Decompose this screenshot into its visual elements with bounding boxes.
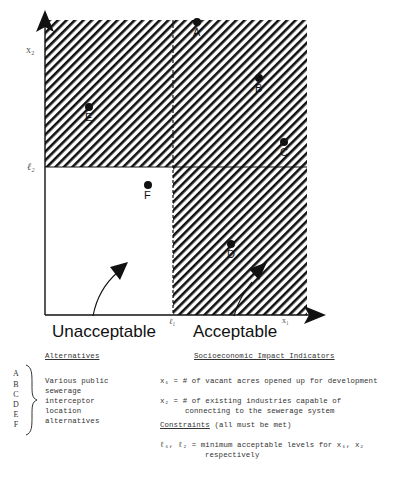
unacceptable-region	[45, 167, 173, 315]
svg-text:C: C	[280, 146, 288, 158]
x1-definition: x₁ = # of vacant acres opened up for dev…	[160, 376, 378, 386]
unacceptable-label: Unacceptable	[52, 322, 156, 342]
svg-text:F: F	[144, 189, 151, 201]
constraints-line: Constraints (all must be met)	[160, 420, 292, 430]
alternative-letters: A B C D E F	[10, 368, 22, 430]
x2-definition-line2: connecting to the sewerage system	[185, 406, 335, 416]
point-D: D	[227, 240, 235, 260]
point-C: C	[280, 138, 288, 158]
x-axis-label: x₁	[282, 316, 289, 325]
svg-text:E: E	[85, 111, 92, 123]
l2-label: ℓ₂	[27, 161, 35, 172]
threshold-definition-line2: respectively	[205, 450, 259, 460]
constraints-heading: Constraints	[160, 421, 210, 429]
constraints-note: (all must be met)	[210, 421, 292, 429]
y-axis-label: x₂	[26, 44, 35, 55]
indicators-heading: Socioeconomic Impact Indicators	[194, 351, 335, 361]
threshold-definition-line1: ℓ₁, ℓ₂ = minimum acceptable levels for x…	[160, 440, 364, 450]
x2-definition-line1: x₂ = # of existing industries capable of	[160, 396, 341, 406]
point-E: E	[85, 103, 93, 123]
svg-text:A: A	[193, 26, 201, 38]
point-B: B	[255, 74, 263, 94]
alt-letter: F	[10, 419, 22, 430]
point-A: A	[193, 18, 201, 38]
alt-letter: A	[10, 368, 22, 379]
brace-icon	[24, 364, 38, 436]
l1-label: ℓ₁	[169, 317, 175, 326]
acceptable-label: Acceptable	[193, 322, 277, 342]
tradeoff-diagram: A B C D E F	[0, 0, 398, 340]
alternatives-heading: Alternatives	[45, 351, 99, 361]
svg-text:D: D	[227, 248, 235, 260]
alternatives-description: Various public sewerage interceptor loca…	[45, 376, 109, 426]
svg-text:B: B	[255, 82, 262, 94]
